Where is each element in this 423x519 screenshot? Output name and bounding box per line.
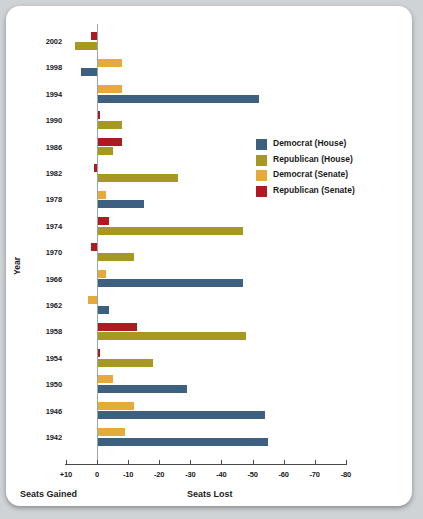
- legend-swatch-icon: [256, 139, 267, 150]
- bar-republican-senate: [97, 323, 137, 331]
- bar-democrat-senate: [97, 402, 134, 410]
- seats-gained-caption: Seats Gained: [20, 489, 77, 499]
- legend-swatch-icon: [256, 186, 267, 197]
- x-axis-line: [65, 464, 347, 465]
- bar-democrat-senate: [97, 375, 113, 383]
- year-axis-label: 1958: [28, 327, 62, 336]
- bar-democrat-senate: [97, 191, 106, 199]
- bar-democrat-house: [97, 438, 268, 446]
- year-axis-label: 1942: [28, 433, 62, 442]
- x-axis-tick: [190, 460, 191, 465]
- bar-republican-house: [97, 147, 113, 155]
- bar-republican-house: [97, 227, 243, 235]
- x-axis-tick: [253, 460, 254, 465]
- x-axis-tick: [159, 460, 160, 465]
- bar-republican-house: [97, 253, 134, 261]
- x-axis-tick-label: -20: [144, 470, 174, 479]
- legend-label: Republican (House): [273, 154, 353, 164]
- bar-democrat-senate: [97, 270, 106, 278]
- y-axis-title: Year: [12, 246, 22, 286]
- bar-democrat-senate: [97, 428, 125, 436]
- bar-democrat-house: [97, 95, 259, 103]
- year-axis-label: 1946: [28, 407, 62, 416]
- x-axis-tick-label: +10: [51, 470, 81, 479]
- legend-swatch-icon: [256, 170, 267, 181]
- bar-chart: Year 20021998199419901986198219781974197…: [6, 6, 412, 506]
- bar-democrat-house: [81, 68, 97, 76]
- bar-republican-house: [97, 174, 178, 182]
- x-axis-tick-label: -10: [113, 470, 143, 479]
- x-axis-tick: [284, 460, 285, 465]
- year-axis-label: 1990: [28, 116, 62, 125]
- year-axis-label: 1954: [28, 354, 62, 363]
- zero-reference-line: [97, 24, 98, 464]
- x-axis-tick-label: -30: [175, 470, 205, 479]
- bar-republican-senate: [97, 138, 122, 146]
- year-axis-label: 1994: [28, 90, 62, 99]
- bar-democrat-house: [97, 385, 187, 393]
- x-axis-tick: [128, 460, 129, 465]
- bar-democrat-senate: [88, 296, 97, 304]
- x-axis-tick: [315, 460, 316, 465]
- bar-republican-house: [97, 121, 122, 129]
- bar-republican-house: [75, 42, 97, 50]
- x-axis-tick: [66, 460, 67, 465]
- bar-republican-house: [97, 332, 246, 340]
- year-axis-label: 1998: [28, 63, 62, 72]
- seats-lost-caption: Seats Lost: [187, 489, 233, 499]
- year-axis-label: 1978: [28, 195, 62, 204]
- x-axis-tick: [221, 460, 222, 465]
- year-axis-label: 2002: [28, 37, 62, 46]
- legend-label: Republican (Senate): [273, 185, 355, 195]
- year-axis-label: 1970: [28, 248, 62, 257]
- year-axis-label: 1974: [28, 222, 62, 231]
- chart-card: Year 20021998199419901986198219781974197…: [6, 6, 412, 506]
- bar-democrat-house: [97, 306, 109, 314]
- year-axis-label: 1966: [28, 275, 62, 284]
- bar-democrat-senate: [97, 85, 122, 93]
- bar-democrat-house: [97, 279, 243, 287]
- x-axis-tick-label: -80: [331, 470, 361, 479]
- year-axis-label: 1950: [28, 380, 62, 389]
- year-axis-label: 1986: [28, 143, 62, 152]
- bar-republican-senate: [97, 217, 109, 225]
- x-axis-tick: [97, 460, 98, 465]
- bar-democrat-house: [97, 200, 144, 208]
- bar-republican-house: [97, 359, 153, 367]
- x-axis-tick: [346, 460, 347, 465]
- x-axis-tick-label: -70: [300, 470, 330, 479]
- year-axis-label: 1962: [28, 301, 62, 310]
- x-axis-tick-label: 0: [82, 470, 112, 479]
- bar-democrat-senate: [97, 59, 122, 67]
- year-axis-label: 1982: [28, 169, 62, 178]
- x-axis-tick-label: -40: [206, 470, 236, 479]
- x-axis-tick-label: -60: [269, 470, 299, 479]
- legend-label: Democrat (Senate): [273, 169, 348, 179]
- x-axis-tick-label: -50: [238, 470, 268, 479]
- legend-label: Democrat (House): [273, 138, 346, 148]
- legend-swatch-icon: [256, 155, 267, 166]
- bar-democrat-house: [97, 411, 265, 419]
